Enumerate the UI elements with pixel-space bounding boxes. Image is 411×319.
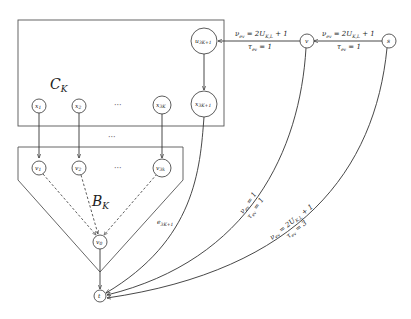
edge-v3k-v0 <box>104 174 157 235</box>
edge-label-e3k1: e3K+1 <box>157 218 173 227</box>
node-v: v <box>300 34 314 48</box>
edge-v1-v0 <box>43 174 96 235</box>
node-x3k: x3K <box>153 96 171 114</box>
edge-label-v-u-tau: τev = 1 <box>248 43 272 52</box>
network-diagram: CK BK ··· ··· ··· νev = 2UK,L + 1 τev = … <box>0 0 411 319</box>
node-t: t <box>94 290 106 302</box>
node-x2: x2 <box>72 99 86 113</box>
ellipsis-x: ··· <box>114 101 122 110</box>
ellipsis-between: ··· <box>108 133 116 142</box>
node-x1: x1 <box>32 99 46 113</box>
svg-text:s: s <box>387 37 390 44</box>
node-u3k1: u3K+1 <box>191 28 217 54</box>
node-v0: v0 <box>93 235 107 249</box>
edge-label-s-v-nu: νev = 2UK,L + 1 <box>322 30 375 39</box>
node-v1: v1 <box>32 161 46 175</box>
c-k-label: CK <box>50 76 69 94</box>
edge-label-v-u-nu: νev = 2UK,L + 1 <box>235 30 288 39</box>
edge-v-t <box>107 48 306 295</box>
b-k-label: BK <box>91 193 110 211</box>
edge-label-s-t: νev = 2UK,L + 1 τev = 3 <box>268 203 320 249</box>
node-v2: v2 <box>72 161 86 175</box>
edge-x3k1-t <box>106 117 204 293</box>
edge-label-s-v-tau: τev = 1 <box>337 43 361 52</box>
node-v3k: v3k <box>153 159 171 177</box>
node-s: s <box>382 34 396 48</box>
ellipsis-v: ··· <box>114 164 122 173</box>
node-x3k1: x3K+1 <box>191 91 217 117</box>
